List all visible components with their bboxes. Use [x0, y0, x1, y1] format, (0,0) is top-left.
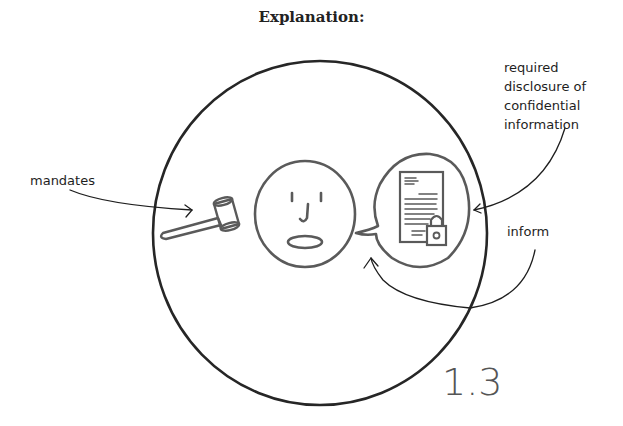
diagram: mandates required disclosure of confiden…	[0, 0, 623, 426]
locked-document-icon	[400, 172, 446, 245]
label-disclosure: required disclosure of confidential info…	[504, 60, 590, 132]
gavel-icon	[161, 196, 240, 239]
mandates-arrow	[70, 190, 192, 210]
label-mandates: mandates	[30, 173, 95, 188]
panel-number: 1.3	[442, 360, 502, 404]
speech-bubble-icon	[356, 154, 469, 267]
disclosure-arrow	[474, 128, 565, 210]
label-inform: inform	[507, 224, 549, 239]
arrows	[70, 128, 565, 308]
face-icon	[255, 161, 355, 267]
